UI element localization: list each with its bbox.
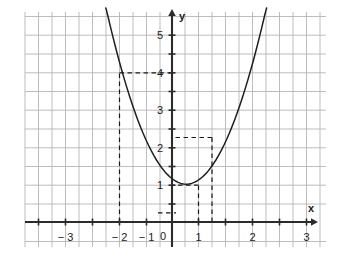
x-tick-label: − 3 — [58, 231, 74, 243]
y-axis-arrow — [168, 9, 176, 16]
y-tick-label: 4 — [157, 67, 163, 79]
x-tick-label-origin: 0 — [160, 230, 166, 242]
x-axis-label: x — [308, 202, 315, 214]
y-tick-label: 2 — [157, 142, 163, 154]
x-tick-label: 1 — [195, 231, 201, 243]
y-tick-label: 3 — [157, 104, 163, 116]
y-axis-label: y — [179, 10, 186, 22]
y-tick-label: 1 — [157, 179, 163, 191]
axis-titles: x y — [179, 10, 315, 214]
axes — [25, 9, 318, 247]
parabola-plot: − 3 − 2 − 1 0 1 2 3 1 2 3 4 5 x y — [0, 0, 343, 264]
x-axis-arrow — [311, 218, 318, 226]
parabola-curve — [106, 8, 267, 184]
graph-canvas: − 3 − 2 − 1 0 1 2 3 1 2 3 4 5 x y — [0, 0, 343, 264]
y-tick-label: 5 — [157, 29, 163, 41]
x-tick-label: 2 — [249, 231, 255, 243]
x-tick-label: − 1 — [139, 231, 155, 243]
x-tick-label: 3 — [303, 231, 309, 243]
x-tick-label: − 2 — [112, 231, 128, 243]
